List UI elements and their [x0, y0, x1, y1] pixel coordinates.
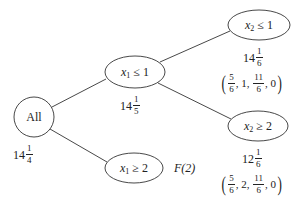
bound-fraction: 14: [26, 144, 33, 165]
root-bound: 14 14: [13, 144, 34, 165]
node-x1-ge-2-label: x1 ≥ 2: [120, 162, 148, 176]
node-x2-le-1-label: x2 ≤ 1: [245, 19, 273, 33]
root-label: All: [26, 111, 41, 123]
node-x2-ge-2-bound: 12 16: [242, 148, 263, 169]
node-x2-ge-2-label: x2 ≥ 2: [244, 120, 272, 134]
node-x2-le-1-bound: 14 16: [243, 47, 264, 68]
edge-root-x1le1: [52, 79, 106, 107]
node-x2-le-1-solution: ( 56, 1, 116, 0 ): [220, 72, 283, 94]
node-x1-ge-2-status: F(2): [174, 162, 195, 174]
bound-whole: 14: [13, 149, 25, 161]
edge-x1le1-x2le1: [160, 31, 230, 62]
node-x1-le-1-label: x1 ≤ 1: [121, 66, 149, 80]
edge-root-x1ge2: [50, 129, 107, 162]
node-x2-ge-2-solution: ( 56, 2, 116, 0 ): [220, 173, 283, 195]
node-x1-le-1-bound: 14 15: [120, 95, 141, 116]
